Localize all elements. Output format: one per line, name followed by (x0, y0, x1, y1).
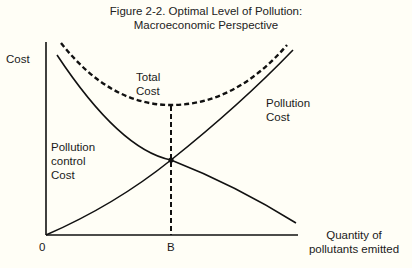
total-cost-label-line2: Cost (136, 84, 160, 98)
x-axis-label-line2: pollutants emitted (300, 242, 408, 256)
pollution-control-cost-label-line1: Pollution (51, 140, 95, 154)
x-axis-label: Quantity of pollutants emitted (300, 228, 408, 256)
b-tick-label: B (167, 240, 175, 254)
total-cost-curve (61, 43, 287, 105)
pollution-cost-label: Pollution Cost (266, 96, 310, 124)
origin-label: 0 (39, 240, 45, 254)
pollution-cost-label-line2: Cost (266, 110, 310, 124)
pollution-control-cost-label: Pollution control Cost (51, 140, 95, 182)
total-cost-label: Total Cost (136, 70, 160, 98)
total-cost-label-line1: Total (136, 70, 160, 84)
pollution-control-cost-label-line3: Cost (51, 168, 95, 182)
pollution-control-cost-label-line2: control (51, 154, 95, 168)
x-axis-label-line1: Quantity of (300, 228, 408, 242)
y-axis-label: Cost (6, 52, 30, 66)
pollution-control-cost-curve (57, 55, 296, 223)
pollution-cost-label-line1: Pollution (266, 96, 310, 110)
intersection-point (168, 157, 173, 162)
